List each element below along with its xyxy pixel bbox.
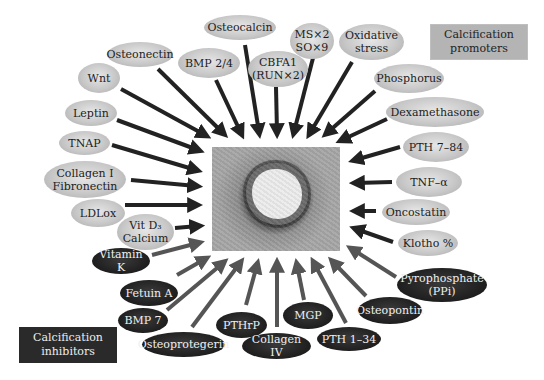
arrow-bmp24 [216,80,241,133]
node-osteoprotegerin: Osteoprotegerin [142,332,225,357]
node-phosphorus: Phosphorus [374,64,444,93]
node-osteocalcin: Osteocalcin [204,15,276,40]
node-oxidative-stress: Oxidative stress [339,24,404,60]
node-tnap: TNAP [59,131,110,155]
arrow-pth784 [355,147,400,160]
legend-calcification-inhibitors: Calcification inhibitors [19,327,117,363]
arrow-osteonectin [158,69,223,133]
node-bmp-7: BMP 7 [118,308,168,333]
node-ldlox: LDLox [71,199,125,227]
node-collagen-iv: Collagen IV [242,333,311,359]
node-pth-1-34: PTH 1–34 [317,327,381,351]
arrow-pthrp [246,265,257,305]
arrow-cbfa1 [276,87,277,132]
artery-cross-section-image [212,147,340,251]
arrow-mgp [297,265,304,300]
arrow-klotho [356,229,393,242]
node-mgp: MGP [283,302,333,329]
arrow-osteopontin [333,262,366,296]
node-bmp-2-4: BMP 2/4 [178,48,240,78]
node-msx2-sox9: MS×2 SO×9 [290,23,334,59]
arrow-vitd3 [175,226,198,228]
node-osteonectin: Osteonectin [107,42,173,67]
node-dexamethasone: Dexamethasone [386,97,484,127]
node-cbfa1-runx2: CBFA1 (RUN×2) [248,51,308,87]
arrow-dexamethasone [342,119,387,140]
node-pth-7-84: PTH 7–84 [403,132,469,162]
node-leptin: Leptin [65,100,117,126]
node-collagen-i-fibronectin: Collagen I Fibronectin [44,161,126,198]
calcification-diagram: Calcification promoters Calcification in… [0,0,544,380]
legend-calcification-promoters: Calcification promoters [430,24,528,60]
arrow-collagen-fibronectin [131,180,196,186]
node-oncostatin: Oncostatin [382,199,450,225]
arrow-tnf [356,182,392,183]
node-klotho: Klotho % [398,230,458,256]
node-wnt: Wnt [78,63,120,93]
arrow-pyrophosphate [352,249,396,277]
arrow-bmp7 [167,263,223,310]
arrow-oxidative-stress [310,62,352,133]
node-tnf-alpha: TNF–α [396,167,462,197]
arrow-tnap [112,145,196,170]
node-vitd3-calcium: Vit D₃ Calcium [117,214,174,250]
node-fetuin-a: Fetuin A [120,280,178,306]
node-vitamin-k: Vitamin K [92,248,150,274]
node-pyrophosphate-ppi: Pyrophosphate (PPi) [397,268,487,302]
node-osteopontin: Osteopontin [358,297,422,324]
arrow-fetuin-a [177,259,205,275]
